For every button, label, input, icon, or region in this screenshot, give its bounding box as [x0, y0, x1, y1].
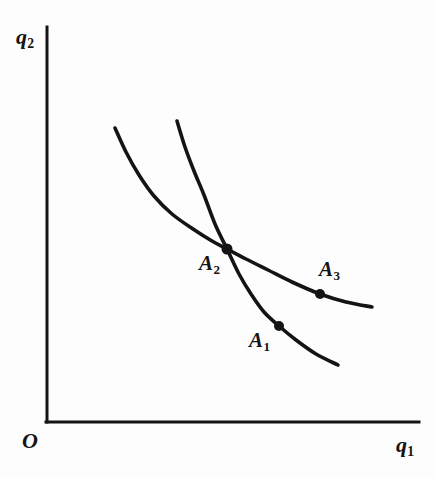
- point-label-a3-subscript: 3: [333, 268, 340, 283]
- x-axis-label-subscript: 1: [407, 444, 414, 459]
- point-label-a1: A1: [249, 328, 270, 353]
- indifference-curve-figure: q2 q1 O A1 A2 A3: [0, 0, 436, 478]
- x-axis-label: q1: [396, 432, 414, 458]
- point-label-a1-subscript: 1: [263, 339, 270, 354]
- y-axis-label-base: q: [16, 24, 27, 49]
- data-point-A2: [222, 244, 233, 255]
- plot-canvas: [0, 0, 436, 478]
- x-axis-label-base: q: [396, 432, 407, 457]
- point-label-a3: A3: [319, 257, 340, 282]
- point-label-a2: A2: [199, 251, 220, 276]
- data-point-A1: [274, 321, 284, 331]
- data-point-A3: [315, 289, 325, 299]
- point-label-a1-base: A: [249, 328, 263, 352]
- y-axis-label-subscript: 2: [27, 36, 34, 51]
- point-label-a2-subscript: 2: [213, 262, 220, 277]
- point-label-a3-base: A: [319, 257, 333, 281]
- origin-label: O: [22, 428, 38, 454]
- y-axis-label: q2: [16, 24, 34, 50]
- point-label-a2-base: A: [199, 251, 213, 275]
